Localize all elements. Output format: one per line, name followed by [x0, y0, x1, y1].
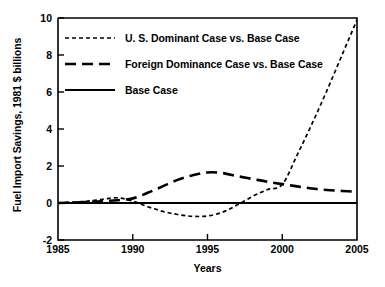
legend-label: U. S. Dominant Case vs. Base Case: [125, 32, 300, 44]
legend-swatch-solid: [65, 84, 115, 96]
legend-label: Foreign Dominance Case vs. Base Case: [125, 58, 323, 70]
legend-item[interactable]: U. S. Dominant Case vs. Base Case: [65, 30, 300, 46]
series-line-0: [58, 20, 357, 217]
series-group: [58, 20, 357, 217]
legend-item[interactable]: Base Case: [65, 82, 178, 98]
legend-label: Base Case: [125, 84, 178, 96]
chart-figure: Fuel Import Savings, 1981 $ billions -20…: [0, 0, 385, 287]
legend-swatch-short-dashed: [65, 32, 115, 44]
series-line-1: [58, 172, 357, 203]
axis-frame: [58, 18, 357, 240]
legend-swatch-long-dashed: [65, 58, 115, 70]
legend-item[interactable]: Foreign Dominance Case vs. Base Case: [65, 56, 323, 72]
